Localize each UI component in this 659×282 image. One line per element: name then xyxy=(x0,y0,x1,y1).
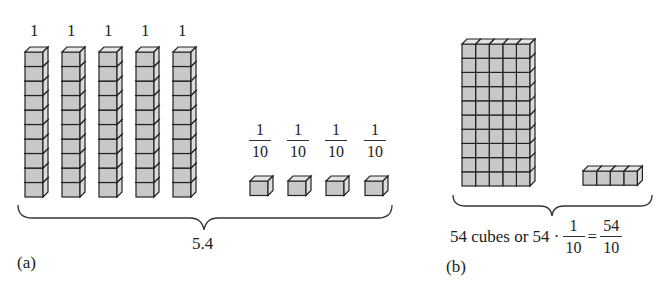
panel-label-a: (a) xyxy=(17,254,36,271)
cube-fraction-label: 110 xyxy=(325,122,347,160)
brace-a xyxy=(18,205,392,230)
cube-fraction-label: 110 xyxy=(364,122,386,160)
equals-sign: = xyxy=(588,227,598,247)
cube-fraction-label: 110 xyxy=(249,122,271,160)
unit-cubes-group xyxy=(250,176,388,196)
rods-group xyxy=(25,47,196,197)
cube-fraction-label: 110 xyxy=(287,122,309,160)
brace-b xyxy=(453,195,652,216)
caption-fraction: 110 xyxy=(563,218,585,256)
rod-label: 1 xyxy=(67,22,76,39)
extra-cubes-b xyxy=(583,166,642,185)
rod-label: 1 xyxy=(104,22,113,39)
total-label: 5.4 xyxy=(192,235,213,252)
rod-label: 1 xyxy=(178,22,187,39)
caption-b: 54 cubes or 54 · 110 = 5410 xyxy=(450,218,625,256)
rod-label: 1 xyxy=(30,22,39,39)
rod-label: 1 xyxy=(141,22,150,39)
caption-text: 54 cubes or 54 · xyxy=(450,227,560,247)
panel-label-b: (b) xyxy=(446,258,466,275)
flat-block xyxy=(462,39,535,186)
result-fraction: 5410 xyxy=(600,218,622,256)
